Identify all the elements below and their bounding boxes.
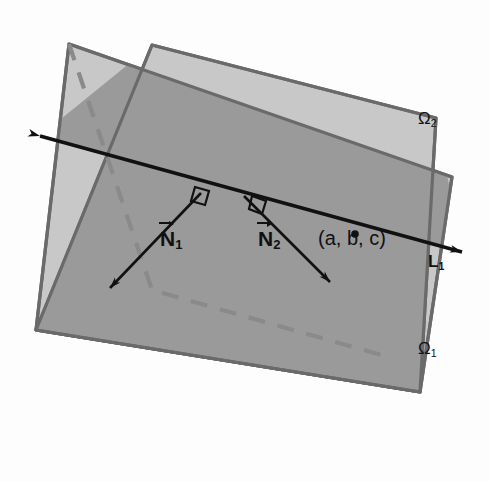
label-line-l1: L1 [428, 253, 444, 271]
label-normal-vector-1-sub: 1 [175, 237, 182, 252]
label-normal-vector-1-base: N [160, 227, 175, 250]
vector-arrow-overbar-1 [159, 222, 173, 224]
planes-diagram-svg [0, 0, 490, 482]
label-plane-omega1: Ω1 [418, 340, 437, 358]
label-plane-omega1-base: Ω [418, 339, 431, 358]
label-plane-omega2-base: Ω [418, 109, 431, 128]
label-plane-omega2-sub: 2 [431, 117, 437, 129]
label-normal-vector-2: N2 [258, 228, 280, 251]
figure-canvas: Ω2 Ω1 N1 N2 (a, b, c) L1 [0, 0, 490, 482]
label-point-abc: (a, b, c) [318, 228, 386, 248]
vector-arrow-overbar-2 [257, 222, 271, 224]
label-plane-omega1-sub: 1 [431, 347, 437, 359]
label-normal-vector-2-base: N [258, 227, 273, 250]
label-plane-omega2: Ω2 [418, 110, 437, 128]
label-normal-vector-1: N1 [160, 228, 182, 251]
label-line-l1-base: L [428, 252, 438, 271]
label-normal-vector-2-sub: 2 [273, 237, 280, 252]
label-line-l1-sub: 1 [438, 260, 444, 272]
